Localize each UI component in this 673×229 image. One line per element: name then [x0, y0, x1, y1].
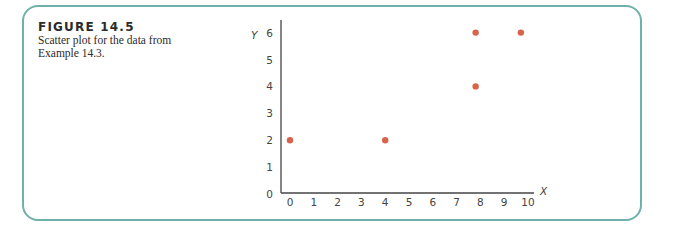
x-tick-labels: 012345678910	[287, 196, 535, 208]
y-tick-labels: 0123456	[266, 27, 273, 200]
y-tick-label: 4	[266, 80, 273, 92]
y-tick-label: 5	[266, 54, 273, 66]
x-axis-label: X	[539, 185, 548, 197]
data-point	[472, 83, 478, 89]
data-point	[518, 29, 524, 35]
data-point	[287, 137, 293, 143]
data-point	[472, 29, 478, 35]
x-tick-label: 6	[429, 196, 436, 208]
x-tick-label: 4	[382, 196, 389, 208]
x-tick-label: 2	[334, 196, 341, 208]
x-tick-label: 8	[477, 196, 484, 208]
x-tick-label: 1	[310, 196, 317, 208]
data-points	[287, 29, 524, 143]
y-tick-label: 6	[266, 27, 273, 39]
x-tick-label: 9	[501, 196, 508, 208]
y-axis-label: Y	[251, 29, 259, 41]
x-tick-label: 7	[453, 196, 460, 208]
x-tick-label: 5	[406, 196, 413, 208]
data-point	[382, 137, 388, 143]
y-tick-label: 3	[266, 107, 273, 119]
scatter-plot: 012345678910 0123456 X Y	[0, 0, 673, 229]
y-tick-label: 0	[266, 188, 273, 200]
x-tick-label: 3	[358, 196, 365, 208]
x-tick-label: 10	[521, 196, 534, 208]
y-tick-label: 1	[266, 161, 273, 173]
x-tick-label: 0	[287, 196, 294, 208]
y-tick-label: 2	[266, 134, 273, 146]
